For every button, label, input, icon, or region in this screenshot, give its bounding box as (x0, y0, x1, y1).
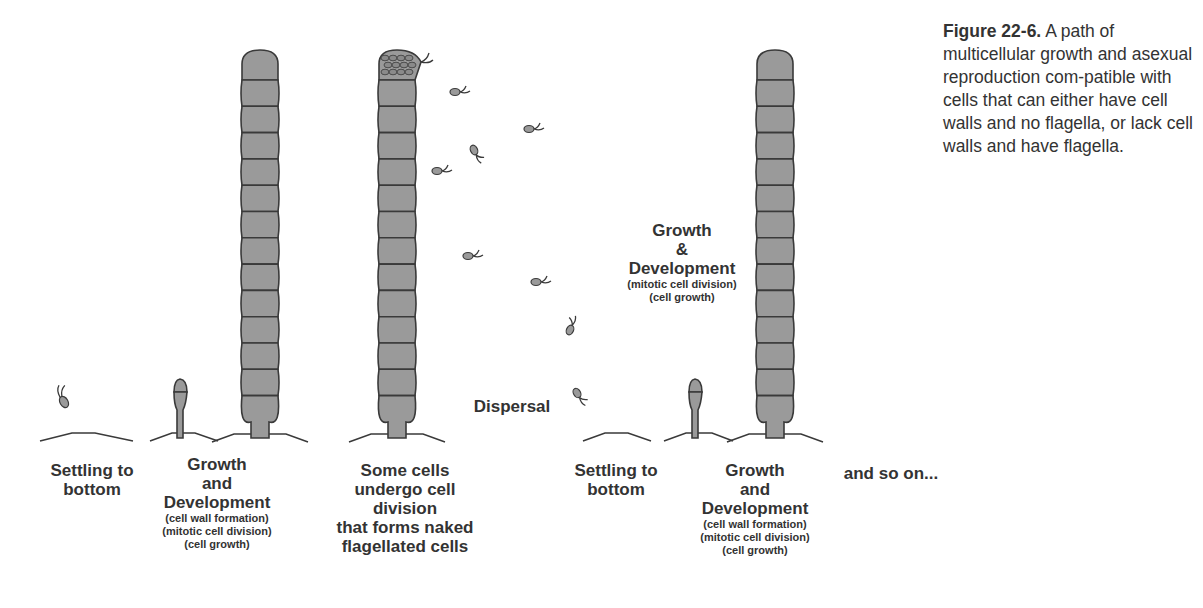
filament-tall-1 (212, 50, 308, 442)
zoospore-icon (562, 314, 579, 336)
zoospore-icon (463, 250, 483, 260)
label-settling-2: Settling to bottom (556, 461, 676, 499)
zoospore-icon (450, 86, 470, 96)
label-growth-2: Growth and Development (cell wall format… (680, 461, 830, 557)
figure-label: Figure 22-6. (943, 21, 1041, 41)
label-sporulation: Some cells undergo cell division that fo… (320, 461, 490, 556)
zoospore-icon (524, 123, 544, 133)
zoospore-icon (432, 165, 452, 175)
figure-caption: Figure 22-6. A path of multicellular gro… (943, 20, 1193, 158)
stage-2-germling (150, 379, 218, 441)
stage-4-settling (583, 379, 733, 441)
figure-caption-text: A path of multicellular growth and asexu… (943, 21, 1193, 156)
zoospore-icon (531, 276, 551, 286)
zoospore-icon (52, 383, 75, 409)
zoospore-icon (571, 386, 589, 408)
label-growth-1: Growth and Development (cell wall format… (152, 455, 282, 551)
zoospore-icon (469, 143, 486, 165)
label-and-so-on: and so on... (836, 464, 946, 483)
filament-sporulating (349, 50, 445, 442)
label-dispersal: Dispersal (462, 397, 562, 416)
stage-1-settling (40, 383, 133, 441)
label-settling-1: Settling to bottom (22, 461, 162, 499)
label-growth-development-mid: Growth & Development (mitotic cell divis… (612, 221, 752, 304)
dispersing-zoospores (432, 86, 590, 408)
